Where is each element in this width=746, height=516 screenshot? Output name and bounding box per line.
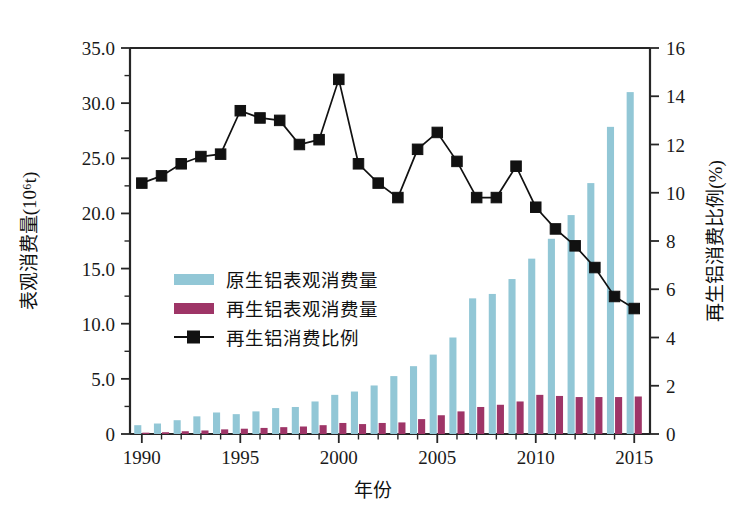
bar-recycled-2007 <box>477 407 484 434</box>
ratio-marker-2012 <box>570 241 581 252</box>
aluminium-consumption-chart: 05.010.015.020.025.030.035.0 02468101214… <box>0 0 746 516</box>
ratio-marker-2002 <box>373 178 384 189</box>
right-tick-label-4: 4 <box>666 328 676 349</box>
ratio-marker-2006 <box>452 156 463 167</box>
y2-axis-title: 再生铝消费比例(%) <box>705 160 727 321</box>
legend-swatch-primary <box>174 274 214 285</box>
ratio-marker-2014 <box>609 291 620 302</box>
legend-swatch-recycled <box>174 303 214 314</box>
bar-recycled-1996 <box>261 428 268 434</box>
bar-recycled-2010 <box>536 395 543 434</box>
bar-recycled-2009 <box>517 401 524 434</box>
ratio-marker-2000 <box>334 74 345 85</box>
bar-primary-2000 <box>331 395 338 434</box>
ratio-marker-2010 <box>531 202 542 213</box>
legend-marker-ratio <box>187 331 200 344</box>
ratio-marker-2009 <box>511 161 522 172</box>
bar-recycled-1992 <box>182 431 189 434</box>
ratio-marker-1995 <box>235 105 246 116</box>
bar-primary-2013 <box>587 183 594 434</box>
bar-recycled-2005 <box>438 415 445 434</box>
right-tick-label-14: 14 <box>666 86 686 107</box>
bar-primary-1991 <box>154 424 161 434</box>
x-tick-label-2010: 2010 <box>517 447 555 468</box>
left-tick-label-25.0: 25.0 <box>82 148 115 169</box>
bar-primary-2003 <box>390 376 397 434</box>
bar-primary-2002 <box>371 385 378 434</box>
bar-recycled-2014 <box>615 397 622 434</box>
legend-label-recycled: 再生铝表观消费量 <box>226 300 378 320</box>
ratio-marker-1998 <box>294 139 305 150</box>
bar-recycled-1998 <box>300 427 307 435</box>
x-tick-label-2000: 2000 <box>320 447 358 468</box>
right-tick-label-0: 0 <box>666 424 676 445</box>
bar-recycled-2011 <box>556 396 563 434</box>
legend-label-primary: 原生铝表观消费量 <box>226 271 378 291</box>
left-tick-label-35.0: 35.0 <box>82 38 115 59</box>
ratio-marker-1997 <box>274 115 285 126</box>
left-tick-label-20.0: 20.0 <box>82 203 115 224</box>
bar-primary-1993 <box>193 416 200 434</box>
chart-legend: 原生铝表观消费量 再生铝表观消费量 再生铝消费比例 <box>174 271 378 349</box>
bar-recycled-2013 <box>595 397 602 434</box>
bar-recycled-2003 <box>398 422 405 434</box>
bar-recycled-1999 <box>320 425 327 434</box>
bar-recycled-2012 <box>576 397 583 434</box>
bar-recycled-1990 <box>142 433 149 434</box>
ratio-marker-2007 <box>471 192 482 203</box>
bar-primary-1995 <box>233 414 240 434</box>
legend-label-ratio: 再生铝消费比例 <box>226 329 359 349</box>
right-tick-label-2: 2 <box>666 376 676 397</box>
left-tick-label-10.0: 10.0 <box>82 314 115 335</box>
ratio-marker-2001 <box>353 159 364 170</box>
ratio-marker-1994 <box>215 149 226 160</box>
right-tick-label-12: 12 <box>666 135 685 156</box>
bar-primary-1992 <box>174 420 181 434</box>
bar-recycled-2004 <box>418 419 425 434</box>
bar-recycled-1993 <box>201 430 208 434</box>
ratio-marker-1992 <box>176 159 187 170</box>
ratio-marker-2005 <box>432 127 443 138</box>
bar-recycled-2006 <box>457 411 464 434</box>
bar-recycled-2015 <box>635 397 642 435</box>
x-tick-label-1990: 1990 <box>123 447 161 468</box>
ratio-marker-1993 <box>196 151 207 162</box>
left-tick-label-15.0: 15.0 <box>82 259 115 280</box>
bar-primary-2009 <box>508 279 515 434</box>
bar-recycled-2002 <box>379 423 386 434</box>
bar-primary-1998 <box>292 407 299 434</box>
ratio-marker-1990 <box>137 178 148 189</box>
bar-primary-1994 <box>213 412 220 434</box>
x-tick-label-1995: 1995 <box>221 447 259 468</box>
ratio-marker-2008 <box>491 192 502 203</box>
bar-primary-2001 <box>351 392 358 434</box>
bar-recycled-1994 <box>221 429 228 434</box>
ratio-marker-1996 <box>255 113 266 124</box>
ratio-marker-2013 <box>590 262 601 273</box>
ratio-marker-1991 <box>156 171 167 182</box>
ratio-marker-2015 <box>629 303 640 314</box>
bar-recycled-2008 <box>497 405 504 434</box>
bar-primary-1996 <box>252 411 259 434</box>
bar-primary-2006 <box>449 338 456 435</box>
bar-primary-2014 <box>607 127 614 434</box>
bar-primary-2010 <box>528 259 535 434</box>
bar-primary-2005 <box>430 355 437 434</box>
left-tick-label-30.0: 30.0 <box>82 93 115 114</box>
bar-primary-2004 <box>410 366 417 434</box>
ratio-marker-2004 <box>412 144 423 155</box>
bar-recycled-1991 <box>162 432 169 434</box>
right-tick-label-16: 16 <box>666 38 685 59</box>
bar-primary-2007 <box>469 298 476 434</box>
left-tick-label-0: 0 <box>106 424 116 445</box>
ratio-marker-1999 <box>314 134 325 145</box>
bar-recycled-2000 <box>339 423 346 434</box>
left-tick-label-5.0: 5.0 <box>91 369 115 390</box>
x-axis-title: 年份 <box>354 480 392 501</box>
bar-recycled-1997 <box>280 427 287 434</box>
y-axis-title: 表观消费量(10⁶t) <box>19 172 41 311</box>
bar-primary-1997 <box>272 408 279 434</box>
right-tick-label-10: 10 <box>666 183 685 204</box>
right-tick-label-6: 6 <box>666 279 676 300</box>
x-tick-label-2005: 2005 <box>418 447 456 468</box>
